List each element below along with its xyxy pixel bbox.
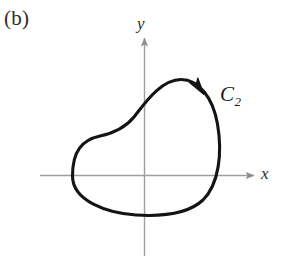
y-axis-label: y bbox=[137, 15, 145, 32]
curve-label-subscript: 2 bbox=[235, 94, 242, 109]
figure-panel-b: (b) y x C2 bbox=[0, 0, 289, 263]
closed-curve-c2 bbox=[73, 80, 220, 216]
curve-diagram bbox=[0, 0, 289, 263]
panel-label: (b) bbox=[4, 8, 29, 29]
curve-label-base: C bbox=[220, 82, 234, 106]
x-axis-label: x bbox=[261, 165, 269, 182]
curve-label-c2: C2 bbox=[220, 84, 241, 108]
